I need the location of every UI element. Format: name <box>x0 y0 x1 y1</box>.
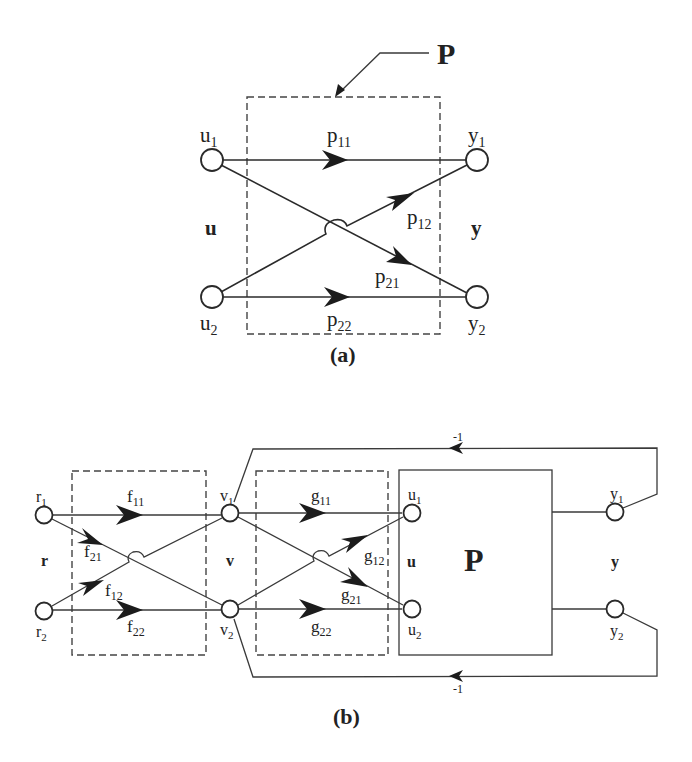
label-f22: f22 <box>127 617 145 639</box>
node-r2 <box>36 603 53 620</box>
vector-r-label: r <box>41 552 48 569</box>
label-v2: v2 <box>220 621 234 641</box>
label-p12: p12 <box>407 205 432 232</box>
label-g12: g12 <box>364 546 385 568</box>
vector-v-label: v <box>226 552 234 569</box>
node-v2 <box>222 601 239 618</box>
vector-u-label: u <box>205 216 217 240</box>
label-f21: f21 <box>84 542 102 564</box>
arrow-f21-icon <box>77 528 103 545</box>
feedback-gain-bottom: -1 <box>453 682 463 696</box>
plant-label-P: P <box>464 542 484 578</box>
feedback-loop-bottom <box>234 613 657 677</box>
feedback-gain-top: -1 <box>453 430 463 444</box>
label-r1: r1 <box>36 488 47 508</box>
node-r1 <box>36 507 53 524</box>
block-label-P: P <box>437 37 455 70</box>
diagram-b: P -1 -1 <box>36 430 658 729</box>
node-u1-b <box>404 505 421 522</box>
feedback-loop-top <box>234 448 657 508</box>
label-g11: g11 <box>311 486 331 508</box>
label-p11: p11 <box>327 123 351 150</box>
label-r2: r2 <box>36 623 47 643</box>
vector-y-label-b: y <box>611 553 619 571</box>
label-u1: u1 <box>200 123 218 150</box>
node-y2-b <box>607 601 624 618</box>
node-y2 <box>466 286 488 308</box>
leader-arrowhead-icon <box>335 84 345 97</box>
label-f11: f11 <box>127 487 144 509</box>
label-y1: y1 <box>468 123 486 150</box>
diagram-a: P u1 u2 y1 y2 u y p11 p12 p21 p22 (a) <box>200 37 488 367</box>
node-y1-b <box>607 504 624 521</box>
label-g22: g22 <box>311 617 332 639</box>
label-u2-b: u2 <box>408 621 422 641</box>
node-u2 <box>201 286 223 308</box>
vector-y-label: y <box>471 216 482 240</box>
label-v1: v1 <box>220 487 234 507</box>
caption-a: (a) <box>330 342 356 367</box>
label-p22: p22 <box>327 307 352 334</box>
node-y1 <box>466 149 488 171</box>
figure-canvas: P u1 u2 y1 y2 u y p11 p12 p21 p22 (a) <box>0 0 692 762</box>
label-g21: g21 <box>341 585 362 607</box>
label-y2-b: y2 <box>610 622 624 642</box>
label-u1-b: u1 <box>408 486 422 506</box>
block-leader-line <box>340 53 429 92</box>
label-p21: p21 <box>375 264 400 291</box>
label-y2: y2 <box>468 311 486 338</box>
arrow-p21-icon <box>386 246 412 265</box>
label-f12: f12 <box>105 581 123 603</box>
label-u2: u2 <box>200 311 218 338</box>
label-y1-b: y1 <box>610 485 624 505</box>
vector-u-label-b: u <box>407 553 416 570</box>
arrow-f12-icon <box>78 580 104 596</box>
arrow-g21-icon <box>340 567 368 587</box>
node-v1 <box>222 505 239 522</box>
caption-b: (b) <box>333 704 360 729</box>
node-u2-b <box>404 601 421 618</box>
node-u1 <box>201 149 223 171</box>
